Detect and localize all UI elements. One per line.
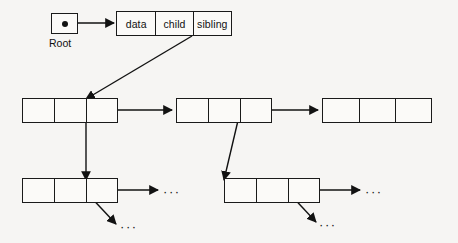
row2-node-1 bbox=[22, 98, 118, 123]
ellipsis-row3-node2-sibling: ··· bbox=[365, 185, 383, 198]
root-pointer-box bbox=[51, 13, 78, 34]
legend-cell-data: data bbox=[117, 12, 155, 35]
row2-node-1-sibling bbox=[86, 99, 117, 122]
legend-node: data child sibling bbox=[116, 11, 232, 36]
row2-node-1-child bbox=[54, 99, 85, 122]
ellipsis-row3-node2-child: ··· bbox=[319, 218, 337, 231]
row3-node-1 bbox=[22, 178, 118, 203]
tree-representation-figure: Root data child sibling ··· ··· ··· ··· bbox=[0, 0, 458, 243]
row3-node-1-child bbox=[54, 179, 85, 202]
row2-node-1-data bbox=[23, 99, 54, 122]
root-label: Root bbox=[49, 37, 71, 49]
row2-node-3-sibling bbox=[395, 99, 431, 122]
row3-node-1-sibling bbox=[86, 179, 117, 202]
row2-node-2-sibling bbox=[240, 99, 271, 122]
pointer-dot-icon bbox=[62, 21, 68, 27]
row3-node-2-child bbox=[256, 179, 287, 202]
row3-node-2 bbox=[224, 178, 320, 203]
legend-cell-sibling: sibling bbox=[193, 12, 231, 35]
row3-node-2-data bbox=[225, 179, 256, 202]
row2-node-2-child bbox=[208, 99, 239, 122]
row2-node-2-data bbox=[177, 99, 208, 122]
ellipsis-row3-node1-child: ··· bbox=[120, 220, 138, 233]
row2-node-3 bbox=[322, 98, 432, 123]
row3-node-2-sibling bbox=[288, 179, 319, 202]
ellipsis-row3-node1-sibling: ··· bbox=[163, 185, 181, 198]
row2-node-3-child bbox=[359, 99, 395, 122]
row2-node-3-data bbox=[323, 99, 359, 122]
row3-node-1-data bbox=[23, 179, 54, 202]
row2-node-2 bbox=[176, 98, 272, 123]
legend-cell-child: child bbox=[155, 12, 192, 35]
edge-legend-child-to-row2-node1 bbox=[86, 36, 192, 99]
